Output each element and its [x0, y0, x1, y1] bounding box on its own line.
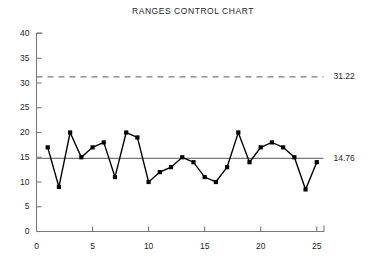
data-point-marker	[214, 180, 218, 184]
data-point-marker	[225, 165, 229, 169]
data-point-marker	[247, 160, 251, 164]
y-axis-tick-label: 40	[8, 28, 30, 38]
data-point-marker	[236, 130, 240, 134]
plot-area	[0, 0, 386, 277]
data-point-marker	[57, 185, 61, 189]
data-point-marker	[270, 140, 274, 144]
y-axis-tick-label: 15	[8, 152, 30, 162]
data-point-marker	[68, 130, 72, 134]
data-point-marker	[259, 145, 263, 149]
x-axis-tick-label: 25	[306, 241, 328, 251]
y-axis-tick-label: 30	[8, 78, 30, 88]
series-line	[48, 133, 317, 190]
y-axis-tick-label: 20	[8, 127, 30, 137]
y-axis-tick-label: 25	[8, 102, 30, 112]
data-point-marker	[191, 160, 195, 164]
data-point-marker	[169, 165, 173, 169]
x-axis-tick-label: 0	[26, 241, 48, 251]
data-point-marker	[158, 170, 162, 174]
data-point-marker	[315, 160, 319, 164]
data-point-marker	[102, 140, 106, 144]
data-point-marker	[292, 155, 296, 159]
data-point-marker	[281, 145, 285, 149]
data-point-marker	[124, 130, 128, 134]
data-point-marker	[303, 187, 307, 191]
data-point-marker	[46, 145, 50, 149]
center-line-label: 14.76	[334, 153, 355, 163]
data-point-marker	[203, 175, 207, 179]
data-point-marker	[180, 155, 184, 159]
series-markers	[46, 130, 319, 191]
x-axis-tick-label: 15	[194, 241, 216, 251]
data-point-marker	[147, 180, 151, 184]
data-point-marker	[90, 145, 94, 149]
y-axis-tick-label: 10	[8, 177, 30, 187]
data-point-marker	[79, 155, 83, 159]
x-axis-tick-label: 10	[138, 241, 160, 251]
y-axis-tick-label: 5	[8, 201, 30, 211]
y-axis-tick-label: 35	[8, 53, 30, 63]
upper-control-limit-label: 31.22	[334, 71, 355, 81]
data-point-marker	[135, 135, 139, 139]
ranges-control-chart: RANGES CONTROL CHART 0510152025303540051…	[0, 0, 386, 277]
data-point-marker	[113, 175, 117, 179]
x-axis-tick-label: 20	[250, 241, 272, 251]
x-axis-tick-label: 5	[82, 241, 104, 251]
y-axis-tick-label: 0	[8, 226, 30, 236]
